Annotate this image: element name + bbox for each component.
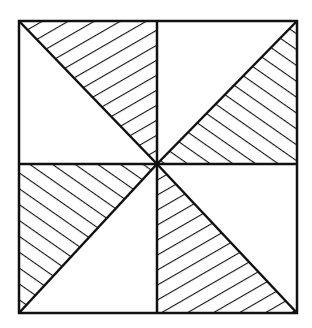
pinwheel-diagram [0,0,312,328]
